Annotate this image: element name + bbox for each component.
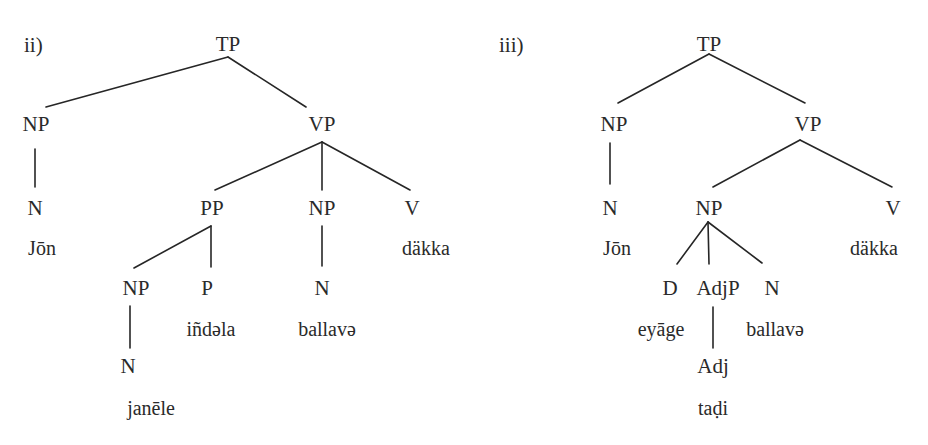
word-ballave: ballavə [746,319,804,339]
node-np-object: NP [696,198,723,219]
node-np-subject: NP [601,114,628,135]
node-adjp: AdjP [696,278,739,299]
example-number-iii: iii) [499,35,524,56]
word-jon: Jōn [603,238,631,258]
node-tp: TP [697,34,722,55]
tree-iii-branches [0,0,928,445]
syntax-trees-figure: ii) TP NP VP N PP NP V Jōn däkka NP P N … [0,0,928,445]
node-adj: Adj [697,356,729,377]
word-eyage: eyāge [638,319,685,339]
node-n-object: N [764,278,779,299]
node-vp: VP [795,114,822,135]
node-v: V [885,198,900,219]
node-n-subject: N [602,198,617,219]
word-tadi: taḍi [698,398,728,418]
node-d: D [662,278,677,299]
word-dakka: däkka [850,238,898,258]
